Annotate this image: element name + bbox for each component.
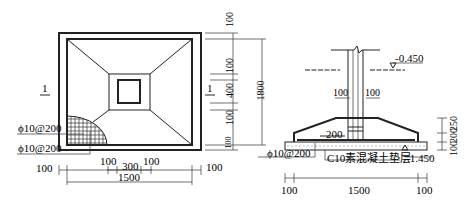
- cover-left: 100: [333, 87, 348, 98]
- dim-left-offset: 100: [36, 162, 53, 174]
- section-dim-left: 100: [281, 184, 298, 196]
- dim-right-total: 1800: [255, 81, 266, 101]
- dim-inner-left: 100: [100, 155, 117, 167]
- section-dim-right: 100: [416, 184, 433, 196]
- cushion-label: C10素混凝土垫层: [327, 149, 411, 165]
- section-mark-left: 1: [42, 82, 48, 94]
- dim-right-lower: 100: [224, 110, 235, 125]
- ground-level: -0.450: [395, 52, 423, 64]
- dim-inner-right: 100: [143, 155, 160, 167]
- dim-right-offset: 100: [206, 161, 223, 173]
- section-rebar-label: ϕ10@200: [267, 147, 310, 159]
- section-mark-right: 1: [207, 82, 213, 94]
- step-dim: 200: [326, 128, 343, 140]
- rebar-label-2: ϕ10@200: [18, 142, 61, 154]
- dim-total-width: 1500: [118, 171, 140, 183]
- cover-right: 100: [365, 87, 380, 98]
- rebar-label-1: ϕ10@200: [18, 122, 61, 134]
- labels-layer: 1 1 ϕ10@200 ϕ10@200 100 100 300 100 100 …: [0, 0, 469, 205]
- section-dim-right-top: 250: [448, 116, 459, 131]
- bottom-level: -1.450: [406, 152, 434, 164]
- section-dim-right-bottom: 100: [448, 141, 459, 156]
- dim-right-top: 100: [224, 12, 235, 27]
- dim-right-column: 400: [224, 83, 235, 98]
- dim-right-bottom: 100: [224, 137, 233, 149]
- dim-right-upper: 100: [224, 58, 235, 73]
- section-dim-middle: 1500: [348, 184, 370, 196]
